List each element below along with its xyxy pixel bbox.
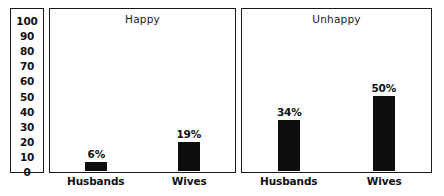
y-tick-50: 50 [11,92,43,103]
panel-happy-plot-area: 6% 19% [50,7,235,171]
category-label-happy-wives: Wives [143,175,237,187]
category-label-row: HusbandsWivesHusbandsWives [0,175,444,195]
y-tick-100: 100 [11,16,43,27]
bar-chart-figure: 1009080706050403020100 Happy 6% 19% Unha… [0,0,444,196]
category-label-unhappy-wives: Wives [337,175,433,187]
panel-unhappy-plot-area: 34% 50% [242,7,431,171]
y-tick-30: 30 [11,122,43,133]
y-tick-70: 70 [11,61,43,72]
category-label-happy-husbands: Husbands [49,175,143,187]
bar-happy-husbands[interactable] [85,162,107,171]
y-tick-60: 60 [11,76,43,87]
bar-value-happy-husbands: 6% [88,148,105,160]
panel-happy: Happy 6% 19% [49,8,236,173]
bar-unhappy-wives[interactable] [373,96,395,172]
y-tick-40: 40 [11,107,43,118]
bar-value-happy-wives: 19% [176,128,201,140]
y-tick-20: 20 [11,137,43,148]
bar-slot-happy-husbands: 6% [50,7,143,171]
y-axis-scale-box: 1009080706050403020100 [10,8,44,173]
bar-value-unhappy-husbands: 34% [277,106,302,118]
y-axis-tick-list: 1009080706050403020100 [11,9,43,172]
bar-slot-unhappy-wives: 50% [337,7,432,171]
panel-unhappy: Unhappy 34% 50% [241,8,432,173]
bar-happy-wives[interactable] [178,142,200,171]
category-label-unhappy-husbands: Husbands [241,175,337,187]
bar-slot-happy-wives: 19% [143,7,236,171]
y-tick-80: 80 [11,46,43,57]
bar-value-unhappy-wives: 50% [371,82,396,94]
y-tick-90: 90 [11,31,43,42]
y-tick-10: 10 [11,152,43,163]
bar-unhappy-husbands[interactable] [278,120,300,171]
bar-slot-unhappy-husbands: 34% [242,7,337,171]
